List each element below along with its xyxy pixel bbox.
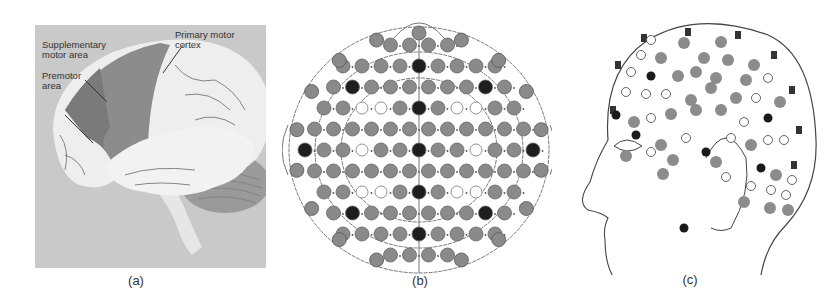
eeg-side-view-diagram	[556, 10, 818, 275]
label-primary-motor-cortex: Primary motor cortex	[175, 30, 235, 50]
caption-a: (a)	[116, 273, 156, 288]
eeg-top-view-diagram	[282, 12, 552, 274]
caption-c: (c)	[670, 272, 710, 287]
label-line: motor area	[42, 50, 106, 60]
label-line: area	[42, 81, 81, 91]
label-line: cortex	[175, 40, 235, 50]
caption-b: (b)	[400, 273, 440, 288]
eeg-side-view-panel	[556, 10, 818, 275]
label-supplementary-motor-area: Supplementary motor area	[42, 40, 106, 60]
eeg-top-view-panel	[282, 12, 552, 274]
label-premotor-area: Premotor area	[42, 71, 81, 91]
brain-illustration-panel: Supplementary motor area Primary motor c…	[35, 25, 266, 268]
brain-illustration	[35, 25, 266, 268]
